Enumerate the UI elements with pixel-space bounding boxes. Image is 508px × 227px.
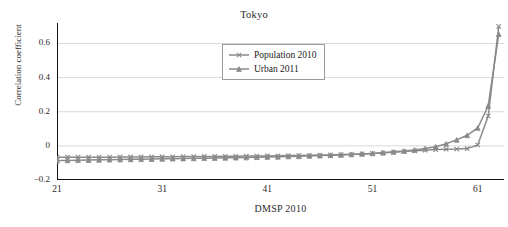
y-tick-label: 0 [8, 140, 50, 150]
chart-legend: Population 2010Urban 2011 [222, 44, 325, 80]
data-point-marker [475, 126, 480, 131]
legend-item: Urban 2011 [228, 62, 317, 76]
x-axis-title: DMSP 2010 [57, 203, 504, 214]
x-tick-label: 31 [142, 184, 182, 194]
legend-label: Urban 2011 [254, 64, 299, 74]
x-tick-label: 21 [37, 184, 77, 194]
chart-title: Tokyo [0, 9, 508, 20]
data-point-marker [496, 32, 501, 37]
legend-swatch-icon [228, 49, 250, 61]
x-tick-label: 61 [458, 184, 498, 194]
y-tick-label: 0.6 [8, 37, 50, 47]
y-tick-label: 0.4 [8, 72, 50, 82]
correlation-coefficient-chart: Tokyo Correlation coefficient DMSP 2010 … [0, 0, 508, 227]
legend-item: Population 2010 [228, 48, 317, 62]
legend-swatch-icon [228, 63, 250, 75]
x-tick-label: 41 [247, 184, 287, 194]
y-tick-label: −0.2 [8, 174, 50, 184]
legend-label: Population 2010 [254, 50, 317, 60]
y-tick-label: 0.2 [8, 106, 50, 116]
x-tick-label: 51 [353, 184, 393, 194]
